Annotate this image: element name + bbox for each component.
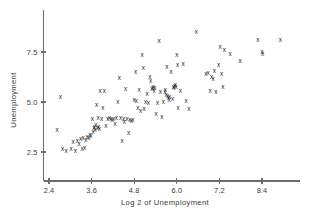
data-point-marker: x xyxy=(59,93,63,100)
data-point-marker: x xyxy=(214,88,218,95)
data-point-marker: x xyxy=(217,61,221,68)
y-axis-title: Unemployment xyxy=(9,72,18,128)
data-point-marker: x xyxy=(153,84,157,91)
data-point-marker: x xyxy=(131,116,135,123)
data-point-marker: x xyxy=(156,99,160,106)
data-point-marker: x xyxy=(182,60,186,67)
data-point-marker: x xyxy=(170,68,174,75)
data-point-marker: x xyxy=(223,46,227,53)
x-tick-label: 4.8 xyxy=(129,186,140,195)
data-point-marker: x xyxy=(238,57,242,64)
x-axis-title: Log 2 of Unemployment xyxy=(121,198,210,207)
data-point-marker: x xyxy=(175,51,179,58)
y-tick-label: 5.0 xyxy=(27,98,38,107)
data-point-marker: x xyxy=(171,95,175,102)
data-point-marker: x xyxy=(261,50,265,57)
data-point-marker: x xyxy=(116,98,120,105)
tick-labels: 2.43.64.86.07.28.42.55.07.5 xyxy=(27,48,268,195)
y-tick-label: 2.5 xyxy=(27,148,38,157)
data-point-marker: x xyxy=(279,36,283,43)
x-tick-label: 3.6 xyxy=(86,186,97,195)
data-points: xxxxxxxxxxxxxxxxxxxxxxxxxxxxxxxxxxxxxxxx… xyxy=(56,28,283,154)
data-point-marker: x xyxy=(83,144,87,151)
data-point-marker: x xyxy=(157,37,161,44)
data-point-marker: x xyxy=(127,129,131,136)
data-point-marker: x xyxy=(155,110,159,117)
data-point-marker: x xyxy=(220,70,224,77)
x-tick-label: 8.4 xyxy=(257,186,268,195)
tick-marks xyxy=(41,52,262,184)
data-point-marker: x xyxy=(95,101,99,108)
data-point-marker: x xyxy=(187,105,191,112)
data-point-marker: x xyxy=(56,126,60,133)
data-point-marker: x xyxy=(74,147,78,154)
plot-area: 2.43.64.86.07.28.42.55.07.5 xxxxxxxxxxxx… xyxy=(0,0,311,214)
data-point-marker: x xyxy=(118,74,122,81)
data-point-marker: x xyxy=(104,122,108,129)
data-point-marker: x xyxy=(209,87,213,94)
data-point-marker: x xyxy=(145,90,149,97)
x-tick-label: 6.0 xyxy=(171,186,182,195)
data-point-marker: x xyxy=(138,86,142,93)
data-point-marker: x xyxy=(195,28,199,35)
data-point-marker: x xyxy=(64,147,68,154)
data-point-marker: x xyxy=(179,87,183,94)
data-point-marker: x xyxy=(142,64,146,71)
data-point-marker: x xyxy=(213,67,217,74)
data-point-marker: x xyxy=(184,97,188,104)
data-point-marker: x xyxy=(121,137,125,144)
data-point-marker: x xyxy=(124,85,128,92)
data-point-marker: x xyxy=(160,113,164,120)
scatter-chart: 2.43.64.86.07.28.42.55.07.5 xxxxxxxxxxxx… xyxy=(0,0,311,214)
data-point-marker: x xyxy=(134,68,138,75)
data-point-marker: x xyxy=(101,104,105,111)
data-point-marker: x xyxy=(98,125,102,132)
x-tick-label: 2.4 xyxy=(44,186,55,195)
data-point-marker: x xyxy=(256,36,260,43)
data-point-marker: x xyxy=(211,75,215,82)
x-tick-label: 7.2 xyxy=(214,186,225,195)
data-point-marker: x xyxy=(228,50,232,57)
data-point-marker: x xyxy=(103,87,107,94)
data-point-marker: x xyxy=(147,99,151,106)
data-point-marker: x xyxy=(100,115,104,122)
data-point-marker: x xyxy=(221,83,225,90)
data-point-marker: x xyxy=(140,51,144,58)
data-point-marker: x xyxy=(176,61,180,68)
y-tick-label: 7.5 xyxy=(27,48,38,57)
data-point-marker: x xyxy=(177,104,181,111)
data-point-marker: x xyxy=(162,98,166,105)
